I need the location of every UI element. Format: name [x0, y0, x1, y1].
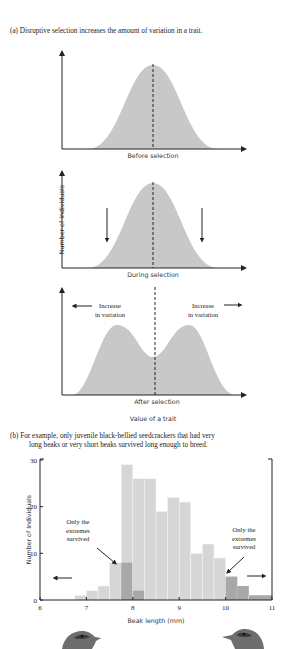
histogram-bar — [214, 558, 226, 600]
pointer-arrow-right — [228, 557, 244, 572]
label-during-selection: During selection — [122, 271, 184, 278]
histogram-bar — [156, 511, 168, 600]
survived-bar — [133, 591, 145, 600]
histogram-bar — [98, 586, 110, 600]
histogram-bar — [191, 553, 203, 600]
x-tick-label: 11 — [269, 604, 276, 612]
distribution-curve — [72, 325, 236, 395]
x-axis-label-value-of-trait: Value of a trait — [122, 415, 184, 422]
y-tick-label: 30 — [30, 457, 38, 465]
panel-a-figure — [0, 0, 288, 420]
x-tick-label: 6 — [38, 604, 42, 612]
histogram-bar — [179, 502, 191, 600]
survived-bar — [226, 577, 238, 600]
graph-before-selection — [62, 53, 244, 149]
histogram-bar — [168, 497, 180, 600]
x-tick-label: 10 — [222, 604, 230, 612]
x-tick-label: 7 — [85, 604, 89, 612]
bird-illustration-short-beak — [60, 628, 102, 649]
label-before-selection: Before selection — [122, 152, 184, 159]
y-axis-label-number-of-individuals: Number of Individuals — [58, 180, 65, 260]
panel-b-caption: (b) For example, only juvenile black-bel… — [10, 432, 288, 450]
histogram-bar — [86, 591, 98, 600]
x-tick-label: 9 — [177, 604, 181, 612]
pointer-arrow-left — [97, 548, 115, 563]
y-tick-label: 0 — [34, 597, 38, 605]
histogram-bar — [110, 563, 122, 600]
histogram-bar — [144, 479, 156, 600]
x-tick-label: 8 — [131, 604, 135, 612]
bird-illustration-long-beak — [222, 625, 266, 649]
histogram-bar — [75, 595, 87, 600]
histogram-bar — [202, 544, 214, 600]
panel-b-caption-line1: (b) For example, only juvenile black-bel… — [10, 432, 288, 441]
annotation-increase-left: Increase in variation — [90, 301, 130, 319]
histogram-bar — [133, 479, 145, 600]
y-ticks: 0102030 — [30, 457, 43, 605]
label-after-selection: After selection — [126, 398, 188, 405]
histogram-y-label: Number of Individuals — [25, 490, 32, 570]
graph-during-selection — [62, 173, 244, 268]
survived-bar — [249, 595, 272, 600]
survived-bar — [121, 563, 133, 600]
panel-b-caption-line2: long beaks or very short beaks survived … — [10, 441, 288, 450]
annotation-extremes-right: Only the extremes survived — [224, 526, 264, 552]
annotation-increase-right: Increase in variation — [181, 301, 225, 319]
histogram-x-label: Beak length (mm) — [116, 617, 196, 624]
annotation-extremes-left: Only the extremes survived — [58, 518, 98, 544]
survived-bar — [237, 586, 249, 600]
